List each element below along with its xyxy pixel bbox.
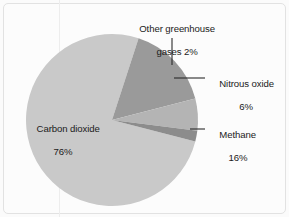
pie-chart-figure: Other greenhouse gases 2% Nitrous oxide …: [0, 0, 289, 217]
slice-label-carbon-dioxide: Carbon dioxide 76%: [14, 111, 112, 180]
slice-label-carbon-dioxide-value: 76%: [14, 146, 112, 158]
slice-label-other-gases-line1: Other greenhouse: [139, 23, 215, 34]
slice-label-nitrous-oxide-value: 6%: [209, 101, 283, 113]
slice-label-nitrous-oxide-name: Nitrous oxide: [219, 78, 274, 89]
slice-label-carbon-dioxide-name: Carbon dioxide: [37, 123, 100, 134]
slice-label-methane-name: Methane: [219, 129, 256, 140]
slice-label-other-gases-line2: gases 2%: [156, 46, 197, 57]
slice-label-methane-value: 16%: [209, 152, 267, 164]
slice-label-other-greenhouse-gases: Other greenhouse gases 2%: [108, 11, 236, 69]
slice-label-methane: Methane 16%: [209, 117, 289, 186]
